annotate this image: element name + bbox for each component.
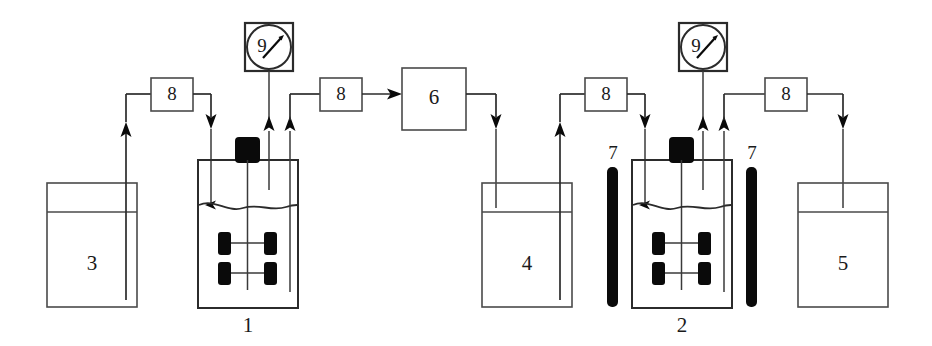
stirrer-motor-icon-1 — [235, 137, 260, 163]
pipe-pump8d-to-tank5 — [807, 94, 849, 208]
pipe-unit6-to-tank4 — [466, 94, 502, 208]
stirrer-motor-icon-2 — [669, 137, 694, 163]
pump-8-d: 8 — [765, 78, 807, 111]
flow-arrow-icon-up-2 — [264, 116, 275, 131]
pump-8-a: 8 — [151, 78, 193, 111]
tank-3-body — [47, 183, 137, 307]
pipe-gauge9right-to-reactor2 — [698, 71, 709, 190]
gauge-9-left: 9 — [245, 23, 293, 71]
pump-8-d-label: 8 — [781, 83, 791, 104]
reactor-2-label: 2 — [677, 313, 688, 337]
pipe-reactor2-to-pump8d — [719, 94, 766, 292]
pump-8-b: 8 — [320, 78, 362, 111]
pipe-gauge9left-to-reactor1 — [264, 71, 275, 190]
gauge-9-right: 9 — [679, 23, 727, 71]
lamp-7-right-label: 7 — [747, 142, 757, 163]
tank-3-label: 3 — [87, 251, 98, 275]
tank-4-label: 4 — [522, 251, 533, 275]
pump-8-b-label: 8 — [336, 83, 346, 104]
pipe-tank4-to-pump8c — [555, 94, 586, 300]
reactor-2: 2 — [632, 137, 732, 337]
unit-6-label: 6 — [429, 85, 440, 109]
tank-3: 3 — [47, 183, 137, 307]
pipe-pump8a-to-reactor1 — [193, 94, 217, 210]
process-flow-diagram: 3 8 — [0, 0, 932, 346]
pipe-reactor1-to-pump8b — [285, 94, 321, 292]
reactor-1: 1 — [198, 137, 298, 337]
gauge-9-right-dial — [681, 25, 725, 69]
pipe-pump8b-to-unit6 — [362, 89, 402, 100]
pipe-tank3-to-pump8a — [121, 94, 152, 300]
flow-diagram-canvas: 3 8 — [0, 0, 932, 346]
gauge-9-left-label: 9 — [257, 35, 267, 56]
lamp-7-right: 7 — [746, 142, 757, 307]
lamp-7-right-tube — [746, 167, 757, 307]
pump-8-c-label: 8 — [601, 83, 611, 104]
tank-5-label: 5 — [838, 251, 849, 275]
lamp-7-left-label: 7 — [608, 142, 618, 163]
gauge-9-left-dial — [247, 25, 291, 69]
lamp-7-left: 7 — [607, 142, 618, 307]
unit-6: 6 — [402, 68, 466, 130]
reactor-1-label: 1 — [243, 313, 254, 337]
gauge-9-right-label: 9 — [691, 35, 701, 56]
lamp-7-left-tube — [607, 167, 618, 307]
pipe-pump8c-to-reactor2 — [627, 94, 651, 210]
pump-8-a-label: 8 — [167, 83, 177, 104]
flow-arrow-icon-up-5 — [698, 116, 709, 131]
pump-8-c: 8 — [585, 78, 627, 111]
